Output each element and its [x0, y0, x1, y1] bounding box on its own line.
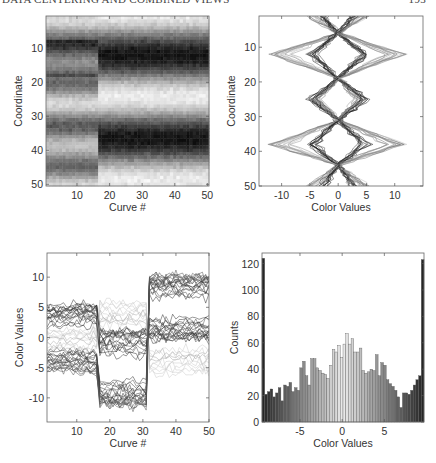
curve-lines-panel: 10203040501050-5-10Curve #Color Values	[13, 253, 215, 449]
histogram-bar	[300, 368, 303, 422]
histogram-bar	[416, 380, 419, 422]
y-tick-label: 120	[241, 258, 259, 270]
histogram-bar	[343, 344, 346, 422]
histogram-bar	[373, 371, 376, 422]
histogram-bar	[308, 385, 311, 422]
x-axis-label: Color Values	[313, 437, 372, 449]
x-tick-label: 0	[339, 425, 345, 437]
histogram-bar	[378, 376, 381, 422]
histogram-bar	[348, 344, 351, 422]
y-tick-label: -5	[35, 362, 44, 374]
y-tick-label: 0	[253, 416, 259, 428]
histogram-bar	[303, 361, 306, 422]
histogram-bar	[340, 357, 343, 422]
histogram-bar	[400, 407, 403, 422]
x-tick-label: -10	[274, 189, 289, 201]
histogram-bar	[335, 352, 338, 422]
histogram-bar	[419, 376, 422, 422]
y-tick-label: 30	[31, 110, 43, 122]
histogram-bar	[273, 397, 276, 422]
y-tick-label: 10	[32, 271, 44, 283]
histogram-bar	[394, 390, 397, 422]
y-axis-label: Counts	[228, 321, 240, 354]
histogram-bar	[319, 371, 322, 422]
y-axis-label: Coordinate	[225, 75, 237, 127]
x-tick-label: 20	[104, 189, 116, 201]
x-tick-label: 0	[335, 189, 341, 201]
x-axis-label: Curve #	[110, 437, 147, 449]
histogram-bar	[386, 380, 389, 422]
y-tick-label: 80	[247, 310, 259, 322]
histogram-bar	[267, 392, 270, 422]
x-tick-label: 20	[104, 425, 116, 437]
histogram-bar	[321, 373, 324, 422]
x-tick-label: 5	[364, 189, 370, 201]
x-tick-label: 10	[389, 189, 401, 201]
x-axis-label: Color Values	[311, 201, 370, 213]
histogram-bar	[327, 378, 330, 422]
histogram-bar	[292, 392, 295, 422]
y-tick-label: 50	[244, 180, 256, 192]
histogram-bar	[276, 393, 279, 422]
y-tick-label: 40	[244, 145, 256, 157]
x-tick-label: 40	[169, 189, 181, 201]
histogram-bar	[384, 365, 387, 422]
x-tick-label: -5	[295, 425, 304, 437]
histogram-bar	[392, 386, 395, 422]
figure: 10203040501020304050Curve #Coordinate -1…	[0, 0, 436, 463]
y-tick-label: 50	[31, 178, 43, 190]
histogram-bar	[316, 368, 319, 422]
histogram-panel: -505020406080100120Color ValuesCounts	[228, 253, 424, 449]
y-axis-label: Coordinate	[12, 75, 24, 127]
histogram-bar	[324, 374, 327, 422]
y-axis-label: Color Values	[13, 308, 25, 367]
histogram-bar	[421, 260, 424, 422]
coordinate-lines-panel: -10-505101020304050Color ValuesCoordinat…	[225, 16, 423, 213]
histogram-bar	[359, 348, 362, 422]
histogram-bar	[351, 339, 354, 422]
histogram-bar	[286, 386, 289, 422]
y-tick-label: 20	[31, 76, 43, 88]
histogram-bar	[297, 390, 300, 422]
x-tick-label: 30	[136, 189, 148, 201]
x-tick-label: 5	[381, 425, 387, 437]
y-tick-label: 5	[38, 301, 44, 313]
x-tick-label: 40	[170, 425, 182, 437]
x-tick-label: 50	[203, 425, 215, 437]
histogram-bar	[278, 388, 281, 422]
x-tick-label: 30	[137, 425, 149, 437]
histogram-bar	[332, 349, 335, 422]
histogram-bar	[281, 401, 284, 422]
histogram-bar	[284, 385, 287, 422]
histogram-bar	[408, 394, 411, 422]
x-tick-label: 10	[71, 189, 83, 201]
heatmap-panel: 10203040501020304050Curve #Coordinate	[12, 16, 213, 213]
histogram-bar	[262, 258, 265, 422]
histogram-bar	[389, 384, 392, 422]
histogram-bar	[411, 390, 414, 422]
histogram-bar	[367, 372, 370, 422]
y-tick-label: -10	[29, 392, 44, 404]
histogram-bar	[397, 397, 400, 422]
histogram-bar	[402, 393, 405, 422]
histogram-bar	[311, 359, 314, 422]
histogram-bar	[270, 389, 273, 422]
y-tick-label: 20	[244, 76, 256, 88]
histogram-bar	[381, 363, 384, 422]
y-tick-label: 20	[247, 390, 259, 402]
y-tick-label: 30	[244, 111, 256, 123]
histogram-bar	[338, 345, 341, 422]
histogram-bar	[357, 352, 360, 422]
histogram-bar	[346, 334, 349, 422]
histogram-bar	[330, 365, 333, 422]
y-tick-label: 100	[241, 284, 259, 296]
y-tick-label: 10	[244, 41, 256, 53]
y-tick-label: 0	[38, 332, 44, 344]
x-tick-label: 10	[71, 425, 83, 437]
histogram-bar	[375, 355, 378, 422]
histogram-bar	[405, 393, 408, 422]
x-tick-label: 50	[202, 189, 214, 201]
histogram-bar	[265, 394, 268, 422]
y-tick-label: 40	[31, 144, 43, 156]
histogram-bar	[365, 373, 368, 422]
